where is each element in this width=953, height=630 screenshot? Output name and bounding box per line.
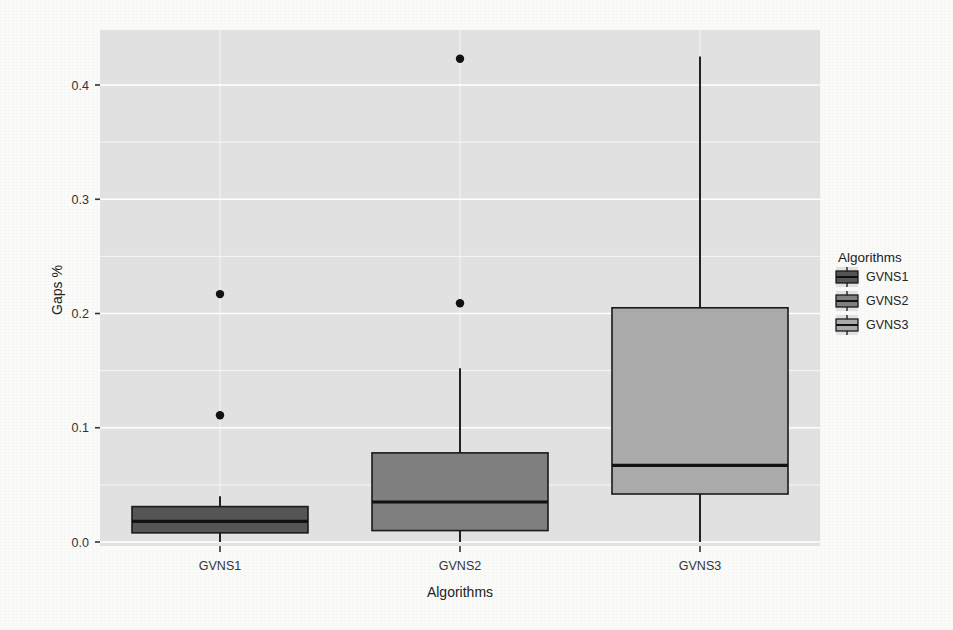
x-axis-title: Algorithms bbox=[427, 584, 493, 600]
x-axis-ticks: GVNS1GVNS2GVNS3 bbox=[199, 546, 721, 573]
y-tick-label: 0.3 bbox=[72, 193, 89, 207]
y-axis-ticks: 0.00.10.20.30.4 bbox=[72, 79, 100, 550]
x-tick-label-gvns1[interactable]: GVNS1 bbox=[199, 559, 241, 573]
legend-item-gvns2[interactable]: GVNS2 bbox=[836, 291, 908, 311]
x-tick-label-gvns3[interactable]: GVNS3 bbox=[679, 559, 721, 573]
y-tick-label: 0.0 bbox=[72, 536, 89, 550]
legend-label: GVNS3 bbox=[866, 318, 908, 332]
legend-label: GVNS2 bbox=[866, 294, 908, 308]
x-tick-label-gvns2[interactable]: GVNS2 bbox=[439, 559, 481, 573]
legend-items: GVNS1GVNS2GVNS3 bbox=[836, 267, 908, 335]
legend: Algorithms GVNS1GVNS2GVNS3 bbox=[836, 250, 908, 335]
boxplot-chart: 0.00.10.20.30.4 GVNS1GVNS2GVNS3 Gaps % A… bbox=[0, 0, 953, 630]
legend-item-gvns1[interactable]: GVNS1 bbox=[836, 267, 908, 287]
y-tick-label: 0.4 bbox=[72, 79, 89, 93]
legend-label: GVNS1 bbox=[866, 270, 908, 284]
legend-title: Algorithms bbox=[838, 250, 902, 265]
y-axis-title: Gaps % bbox=[49, 265, 65, 315]
legend-item-gvns3[interactable]: GVNS3 bbox=[836, 315, 908, 335]
y-tick-label: 0.2 bbox=[72, 307, 89, 321]
y-tick-label: 0.1 bbox=[72, 421, 89, 435]
